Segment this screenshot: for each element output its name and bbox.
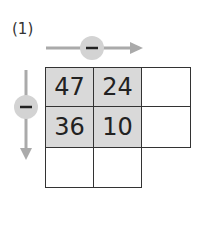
grid-cell-r2c1: 36 <box>45 106 94 148</box>
grid-cell-r1c3[interactable] <box>141 67 191 107</box>
vertical-arrow-icon <box>14 70 38 160</box>
grid-cell-r1c1: 47 <box>45 67 94 107</box>
grid-cell-r3c2[interactable] <box>93 147 142 188</box>
grid-cell-r2c2: 10 <box>93 106 142 148</box>
grid-cell-r3c1[interactable] <box>45 147 94 188</box>
grid-cell-r2c3[interactable] <box>141 106 191 148</box>
horizontal-arrow-icon <box>46 36 143 60</box>
grid-cell-r1c2: 24 <box>93 67 142 107</box>
